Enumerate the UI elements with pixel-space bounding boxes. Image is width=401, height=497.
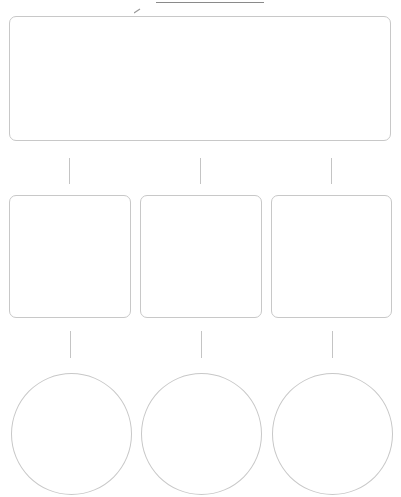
supporting-circle-2[interactable] bbox=[141, 373, 262, 495]
main-idea-box[interactable] bbox=[9, 16, 391, 141]
connector-line bbox=[332, 331, 333, 358]
connector-line bbox=[201, 331, 202, 358]
connector-line bbox=[331, 158, 332, 184]
detail-box-2[interactable] bbox=[140, 195, 262, 318]
detail-box-3[interactable] bbox=[271, 195, 392, 318]
supporting-circle-1[interactable] bbox=[11, 373, 132, 495]
name-field-underline[interactable] bbox=[156, 2, 264, 3]
connector-line bbox=[70, 331, 71, 358]
detail-box-1[interactable] bbox=[9, 195, 131, 318]
connector-line bbox=[200, 158, 201, 184]
pencil-icon bbox=[134, 0, 140, 4]
supporting-circle-3[interactable] bbox=[272, 373, 393, 495]
connector-line bbox=[69, 158, 70, 184]
